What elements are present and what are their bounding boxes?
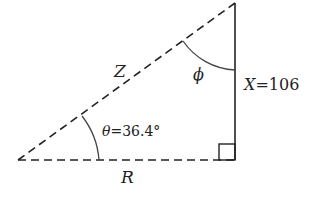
label-theta: θ=36.4° <box>102 124 160 138</box>
label-z: Z <box>114 63 126 80</box>
phi-arc <box>183 41 235 70</box>
x-symbol: X <box>244 75 255 94</box>
x-value: =106 <box>255 75 299 94</box>
label-x: X=106 <box>244 77 299 93</box>
theta-value: =36.4° <box>110 123 160 139</box>
right-angle-marker <box>219 144 235 160</box>
label-r: R <box>121 169 134 186</box>
theta-arc <box>82 116 99 160</box>
label-phi: ϕ <box>193 67 204 83</box>
triangle-figure <box>0 0 315 197</box>
